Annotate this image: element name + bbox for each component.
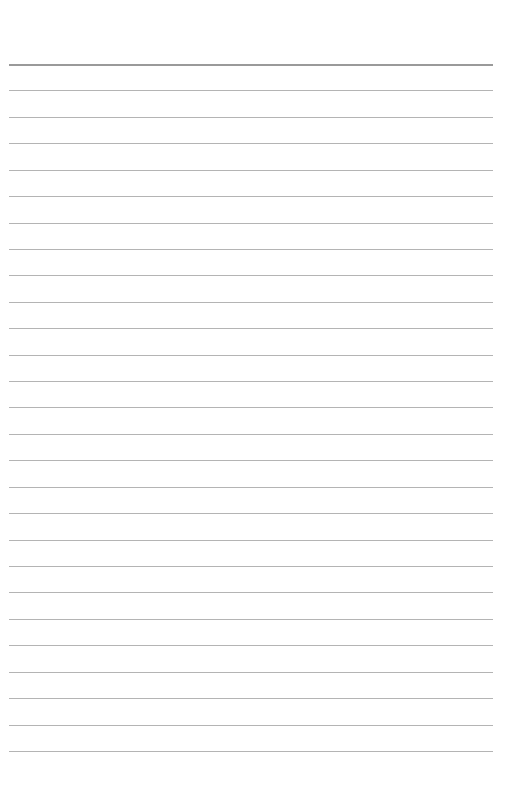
rule-line — [9, 434, 493, 435]
rule-line — [9, 196, 493, 197]
rule-line — [9, 566, 493, 567]
rule-line — [9, 381, 493, 382]
rule-line — [9, 170, 493, 171]
rule-line — [9, 487, 493, 488]
ruled-paper-page — [0, 0, 518, 785]
rule-line — [9, 249, 493, 250]
rule-line — [9, 302, 493, 303]
rule-line — [9, 725, 493, 726]
rule-line — [9, 275, 493, 276]
rule-line — [9, 328, 493, 329]
rule-line — [9, 698, 493, 699]
rule-line — [9, 645, 493, 646]
rule-line — [9, 619, 493, 620]
rule-line — [9, 117, 493, 118]
rule-line — [9, 513, 493, 514]
rule-line — [9, 90, 493, 91]
header-rule-line — [9, 64, 493, 66]
rule-line — [9, 143, 493, 144]
rule-line — [9, 223, 493, 224]
rule-line — [9, 672, 493, 673]
rule-line — [9, 460, 493, 461]
rule-line — [9, 592, 493, 593]
rule-line — [9, 751, 493, 752]
rule-line — [9, 407, 493, 408]
rule-line — [9, 540, 493, 541]
rule-line — [9, 355, 493, 356]
